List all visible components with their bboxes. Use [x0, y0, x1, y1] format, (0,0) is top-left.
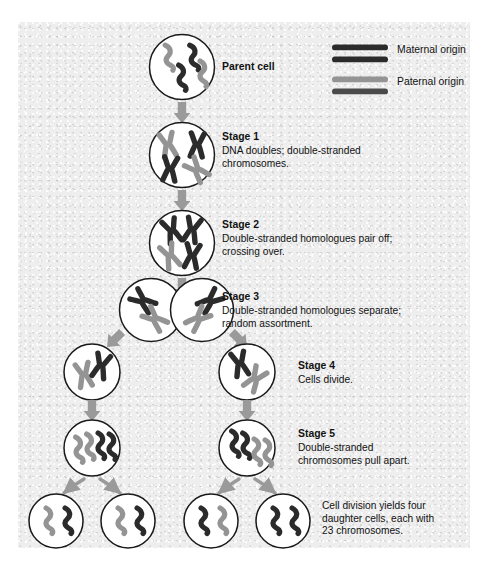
stage-4-cell-right [219, 344, 275, 400]
daughter-cell-4 [256, 494, 310, 548]
legend-swatch-maternal [332, 45, 388, 63]
arrow-stage1-to-stage2 [174, 190, 191, 211]
stage-3-cells [120, 279, 234, 342]
stage-1-title: Stage 1 [222, 131, 259, 144]
daughter-cell-2 [101, 494, 155, 548]
arrows-stage5-to-daughters [64, 479, 275, 493]
stage-2-description: Double-stranded homologues pair off; cro… [222, 233, 392, 258]
stage-5-description: Double-stranded chromosomes pull apart. [298, 442, 410, 467]
stage-1-circle [150, 123, 215, 188]
arrow-stage4-to-stage5-right [239, 400, 256, 421]
daughter-cells-caption: Cell division yields four daughter cells… [322, 500, 434, 538]
stage-4-title: Stage 4 [298, 360, 335, 373]
legend-swatch-paternal [332, 77, 388, 95]
legend-label-paternal: Paternal origin [397, 76, 464, 89]
legend-label-maternal: Maternal origin [397, 44, 466, 57]
stage-5-title: Stage 5 [298, 428, 335, 441]
stage-4-cell-left [64, 344, 120, 400]
stage-3-description: Double-stranded homologues separate; ran… [222, 305, 401, 330]
stage-5-cell-right [219, 420, 275, 476]
meiosis-diagram: Parent cell Maternal origin Paternal ori… [0, 0, 488, 567]
arrow-parent-to-stage1 [174, 102, 191, 123]
daughter-cell-3 [184, 494, 238, 548]
stage-3-title: Stage 3 [222, 291, 259, 304]
parent-cell-circle [150, 35, 215, 100]
stage-4-description: Cells divide. [298, 374, 353, 387]
parent-cell-title: Parent cell [222, 61, 275, 74]
arrow-stage4-to-stage5-left [84, 400, 101, 421]
stage-2-title: Stage 2 [222, 219, 259, 232]
daughter-cell-1 [29, 494, 83, 548]
stage-2-circle [150, 211, 215, 276]
stage-5-cell-left [64, 420, 120, 476]
stage-1-description: DNA doubles; double-stranded chromosomes… [222, 145, 361, 170]
